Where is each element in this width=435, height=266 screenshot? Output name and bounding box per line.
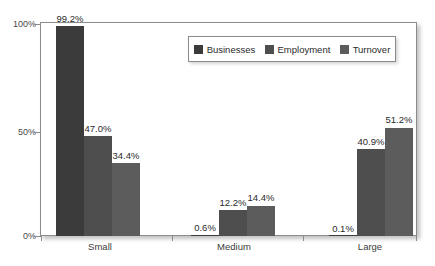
- legend: Businesses Employment Turnover: [188, 36, 396, 62]
- bar-medium-businesses: [191, 235, 219, 236]
- bar-large-businesses: [329, 235, 357, 236]
- bar-value-label-small-businesses: 99.2%: [50, 13, 90, 24]
- legend-entry-turnover[interactable]: Turnover: [340, 44, 391, 55]
- legend-swatch-businesses: [194, 45, 203, 54]
- bar-value-label-small-turnover: 34.4%: [106, 150, 146, 161]
- legend-entry-businesses[interactable]: Businesses: [194, 44, 256, 55]
- bar-medium-turnover: [247, 206, 275, 237]
- y-axis: 100% 50% 0%: [0, 0, 36, 266]
- x-tick-mark-0: [41, 236, 42, 241]
- bar-value-label-large-employment: 40.9%: [351, 136, 391, 147]
- bar-value-label-large-businesses: 0.1%: [323, 223, 363, 234]
- y-tick-mark-0: [34, 236, 41, 237]
- bar-small-turnover: [112, 163, 140, 236]
- legend-label-employment: Employment: [278, 44, 331, 55]
- legend-label-turnover: Turnover: [353, 44, 391, 55]
- x-tick-mark-1: [172, 236, 173, 241]
- x-tick-mark-2: [303, 236, 304, 241]
- legend-label-businesses: Businesses: [207, 44, 256, 55]
- bar-value-label-large-turnover: 51.2%: [379, 114, 419, 125]
- x-tick-mark-3: [416, 236, 417, 241]
- bar-value-label-medium-turnover: 14.4%: [241, 192, 281, 203]
- legend-swatch-turnover: [340, 45, 349, 54]
- scan-edge-artifact: [0, 258, 435, 266]
- bar-value-label-small-employment: 47.0%: [78, 123, 118, 134]
- legend-swatch-employment: [265, 45, 274, 54]
- x-category-label-large: Large: [340, 241, 400, 252]
- legend-entry-employment[interactable]: Employment: [265, 44, 331, 55]
- bar-chart: 100% 50% 0% 99.2% 47.0% 34.4% 0.6% 12.2%…: [0, 0, 435, 266]
- x-category-label-medium: Medium: [202, 241, 266, 252]
- bar-value-label-medium-businesses: 0.6%: [185, 222, 225, 233]
- y-tick-label-100: 100%: [13, 19, 36, 29]
- x-category-label-small: Small: [70, 241, 130, 252]
